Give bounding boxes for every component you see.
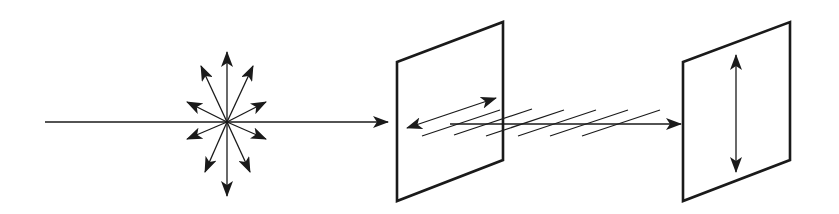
polarized-wave-lines [422,109,660,136]
polarizer-1 [397,22,503,201]
polarizer-2 [683,22,790,201]
unpolarized-light-icon [187,52,266,196]
polarization-diagram: Polarization of light by a polarizer [0,0,839,214]
